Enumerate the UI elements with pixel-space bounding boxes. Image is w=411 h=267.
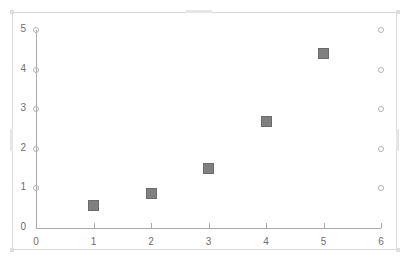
- y-tick-label: 2: [10, 142, 26, 153]
- axis-circle-marker: [33, 146, 39, 152]
- scatter-plot: 0123456 012345: [0, 0, 411, 267]
- y-tick-label: 0: [10, 221, 26, 232]
- axis-circle-marker: [33, 185, 39, 191]
- y-tick-label: 4: [10, 63, 26, 74]
- x-tick-mark: [94, 223, 95, 228]
- x-tick-mark: [266, 223, 267, 228]
- x-tick-label: 5: [312, 236, 336, 247]
- axis-circle-marker: [378, 146, 384, 152]
- axis-circle-marker: [33, 67, 39, 73]
- axis-circle-marker: [378, 185, 384, 191]
- axis-circle-marker: [378, 67, 384, 73]
- x-tick-label: 6: [369, 236, 393, 247]
- x-tick-mark: [209, 223, 210, 228]
- data-point-marker: [203, 163, 214, 174]
- data-point-marker: [88, 200, 99, 211]
- data-point-marker: [318, 48, 329, 59]
- x-axis-line: [36, 228, 381, 229]
- axis-circle-marker: [378, 27, 384, 33]
- x-tick-mark: [381, 223, 382, 228]
- data-point-marker: [146, 188, 157, 199]
- x-tick-label: 1: [82, 236, 106, 247]
- x-tick-mark: [36, 223, 37, 228]
- axis-circle-marker: [378, 106, 384, 112]
- y-tick-label: 5: [10, 23, 26, 34]
- y-axis-line: [36, 30, 37, 229]
- x-tick-mark: [324, 223, 325, 228]
- x-tick-label: 4: [254, 236, 278, 247]
- y-tick-label: 1: [10, 181, 26, 192]
- x-tick-label: 3: [197, 236, 221, 247]
- x-tick-mark: [151, 223, 152, 228]
- y-tick-label: 3: [10, 102, 26, 113]
- x-tick-label: 0: [24, 236, 48, 247]
- axis-circle-marker: [33, 106, 39, 112]
- axis-circle-marker: [33, 27, 39, 33]
- data-point-marker: [261, 116, 272, 127]
- x-tick-label: 2: [139, 236, 163, 247]
